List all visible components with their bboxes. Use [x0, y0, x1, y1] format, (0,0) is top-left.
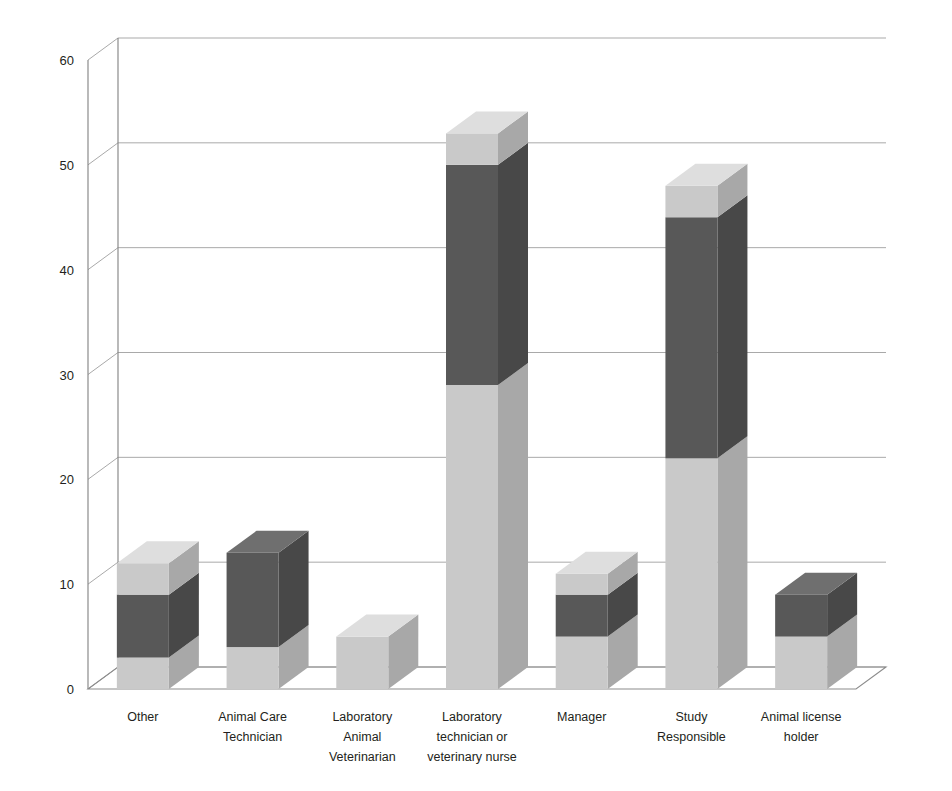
- bars-group: [117, 111, 857, 689]
- bar-column: [227, 531, 309, 689]
- bar-column: [556, 552, 638, 689]
- bar-column: [665, 164, 747, 689]
- bar-segment-side: [717, 195, 747, 458]
- y-tick-label-0: 0: [67, 682, 74, 697]
- bar-column: [775, 573, 857, 689]
- bar-segment-side: [498, 363, 528, 689]
- x-category-label: veterinary nurse: [427, 750, 517, 764]
- x-category-label: Laboratory: [332, 710, 393, 724]
- bar-segment-front: [665, 217, 717, 458]
- y-tick-label-20: 20: [60, 472, 74, 487]
- x-category-label: Manager: [557, 710, 606, 724]
- y-tick-label-30: 30: [60, 368, 74, 383]
- x-category-label: Animal: [343, 730, 381, 744]
- y-tick-label-40: 40: [60, 263, 74, 278]
- x-category-label: technician or: [437, 730, 508, 744]
- bar-segment-front: [227, 647, 279, 689]
- stacked-bar-chart: 0102030405060 OtherAnimal CareTechnician…: [0, 0, 952, 791]
- bar-segment-front: [556, 595, 608, 637]
- x-category-label: Study: [675, 710, 708, 724]
- bar-segment-front: [117, 563, 169, 594]
- y-tick-label-60: 60: [60, 53, 74, 68]
- x-category-label: Animal license: [761, 710, 842, 724]
- gridline-60: [88, 38, 886, 60]
- bar-segment-front: [556, 637, 608, 689]
- bar-column: [446, 111, 528, 689]
- bar-segment-front: [117, 595, 169, 658]
- x-category-label: Responsible: [657, 730, 726, 744]
- y-tick-labels-group: 0102030405060: [60, 53, 74, 697]
- bar-segment-front: [665, 458, 717, 689]
- bar-segment-front: [775, 595, 827, 637]
- bar-column: [117, 541, 199, 689]
- y-tick-label-10: 10: [60, 577, 74, 592]
- x-category-label: Animal Care: [218, 710, 287, 724]
- bar-segment-front: [117, 658, 169, 689]
- y-tick-label-50: 50: [60, 158, 74, 173]
- x-category-label: Laboratory: [442, 710, 503, 724]
- x-category-label: holder: [784, 730, 819, 744]
- bar-segment-front: [556, 574, 608, 595]
- x-category-labels-group: OtherAnimal CareTechnicianLaboratoryAnim…: [127, 710, 841, 764]
- bar-segment-front: [446, 385, 498, 689]
- bar-segment-side: [498, 143, 528, 385]
- bar-segment-side: [717, 436, 747, 689]
- bar-segment-front: [446, 133, 498, 164]
- bar-segment-front: [336, 637, 388, 689]
- bar-column: [336, 615, 418, 689]
- bar-segment-front: [665, 186, 717, 217]
- x-category-label: Technician: [223, 730, 282, 744]
- bar-segment-front: [775, 637, 827, 689]
- bar-segment-front: [446, 165, 498, 385]
- x-category-label: Other: [127, 710, 158, 724]
- bar-segment-front: [227, 553, 279, 647]
- chart-container: 0102030405060 OtherAnimal CareTechnician…: [0, 0, 952, 791]
- x-category-label: Veterinarian: [329, 750, 396, 764]
